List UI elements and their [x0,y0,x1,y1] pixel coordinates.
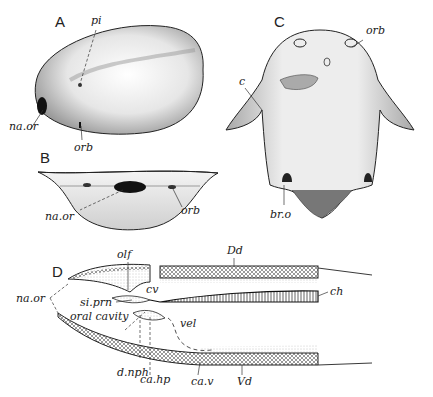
panel-label-c: C [274,14,285,29]
figure-drawing [0,0,433,397]
label-c-c: c [239,76,245,87]
label-d-ch: ch [330,286,343,297]
label-d-si-prn: si.prn [80,297,112,308]
panel-label-b: B [40,150,50,165]
label-b-orb: orb [181,205,200,216]
label-d-dd: Dd [227,245,243,256]
label-d-ca-hp: ca.hp [140,374,170,385]
label-d-vel: vel [180,318,196,329]
label-a-pi: pi [91,15,102,26]
label-d-olf: olf [117,249,131,260]
panel-label-a: A [55,14,65,29]
label-c-br-o: br.o [270,209,291,220]
label-a-na-or: na.or [9,121,38,132]
panel-a-drawing [30,26,203,140]
label-a-orb: orb [74,142,93,153]
label-d-vd: Vd [237,376,252,387]
label-d-ca-v: ca.v [191,376,213,387]
label-d-cv: cv [146,284,158,295]
label-d-oral-cavity: oral cavity [70,311,129,322]
label-d-na-or: na.or [16,293,45,304]
label-b-na-or: na.or [45,211,74,222]
label-c-orb: orb [366,25,385,36]
panel-label-d: D [52,264,63,279]
panel-c-drawing [226,30,414,218]
